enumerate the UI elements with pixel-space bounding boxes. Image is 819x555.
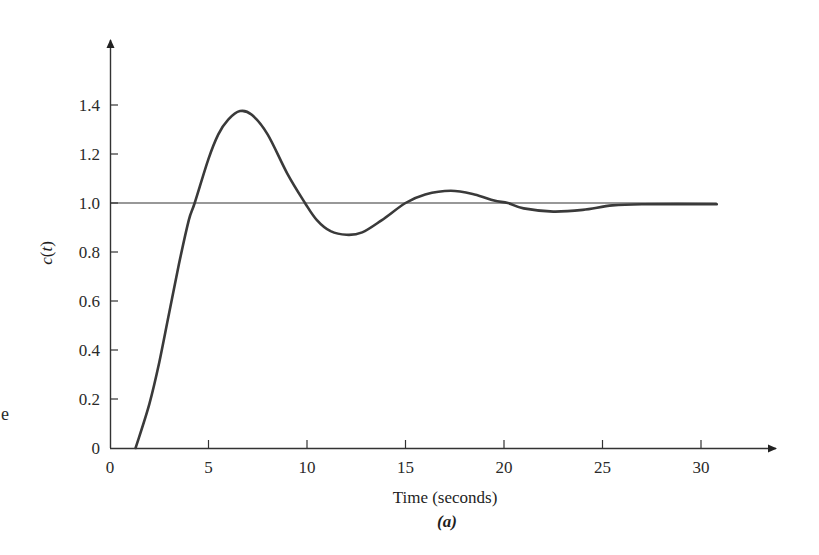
y-tick-label: 1.2 [79,145,100,164]
x-tick-label: 15 [397,458,414,477]
axes [110,40,776,449]
x-tick-label: 25 [594,458,611,477]
y-tick-label: 0 [92,439,101,458]
y-axis-ticks: 00.20.40.60.81.01.21.4 [79,96,118,458]
y-tick-label: 0.4 [79,341,101,360]
y-axis-title: c(t) [37,241,56,265]
x-tick-label: 10 [299,458,316,477]
x-tick-label: 20 [496,458,513,477]
response-curve [136,111,717,448]
y-tick-label: 1.0 [79,194,100,213]
y-tick-label: 0.8 [79,243,100,262]
x-axis-title: Time (seconds) [393,488,498,507]
figure-caption: (a) [437,512,457,531]
x-tick-label: 0 [106,458,115,477]
x-tick-label: 30 [693,458,710,477]
y-tick-label: 0.2 [79,390,100,409]
step-response-chart: 00.20.40.60.81.01.21.4 051015202530 c(t)… [0,0,819,555]
x-axis-ticks: 051015202530 [106,440,710,477]
y-tick-label: 1.4 [79,96,101,115]
x-tick-label: 5 [204,458,213,477]
stray-letter: e [1,404,9,424]
y-tick-label: 0.6 [79,292,100,311]
